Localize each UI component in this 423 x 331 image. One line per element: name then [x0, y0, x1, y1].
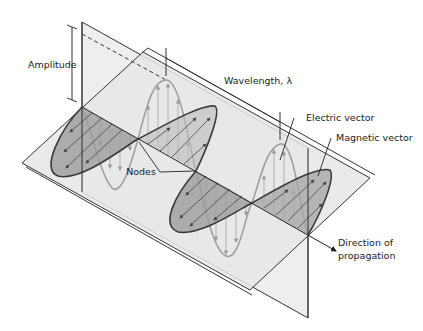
direction-label-line1: Direction of — [338, 237, 394, 248]
wavelength-label: Wavelength, λ — [224, 75, 292, 86]
em-wave-diagram: Amplitude Wavelength, λ Electric vector … — [0, 0, 423, 331]
direction-label-line2: propagation — [338, 250, 395, 261]
amplitude-label: Amplitude — [28, 59, 77, 70]
magnetic-vector-label: Magnetic vector — [336, 132, 413, 143]
nodes-label: Nodes — [126, 166, 156, 177]
electric-vector-label: Electric vector — [306, 112, 374, 123]
